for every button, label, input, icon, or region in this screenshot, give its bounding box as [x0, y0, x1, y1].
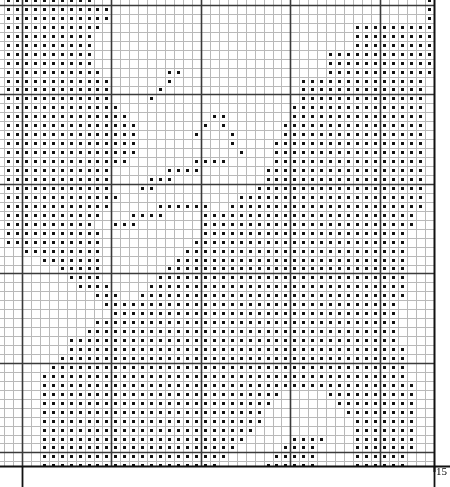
cross-stitch-chart: 15: [0, 0, 450, 487]
pattern-grid-canvas: [0, 0, 450, 487]
bottom-right-count-label: 15: [436, 466, 447, 477]
